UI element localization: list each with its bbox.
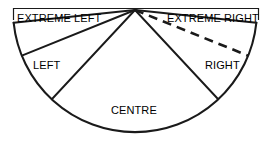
sector-label-right: RIGHT: [205, 59, 240, 71]
diagram-canvas: EXTREME LEFT EXTREME RIGHT LEFT RIGHT CE…: [0, 0, 273, 142]
sector-label-extreme-left: EXTREME LEFT: [17, 12, 101, 24]
sector-label-centre: CENTRE: [111, 104, 157, 116]
sector-label-left: LEFT: [33, 59, 60, 71]
sector-label-extreme-right: EXTREME RIGHT: [167, 12, 259, 24]
